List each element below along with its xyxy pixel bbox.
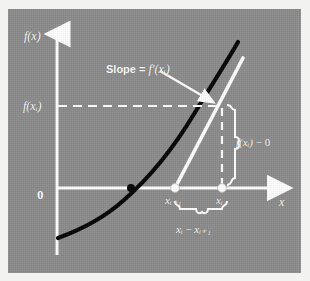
vertical-brace-label: f(xᵢ) − 0 [236,137,270,148]
slope-annotation-prefix: Slope = [106,63,149,75]
horizontal-brace-label-first: xᵢ [176,223,183,235]
y-axis-label: f(x) [24,30,41,42]
origin-label: 0 [37,188,44,201]
x-next-dot [171,184,180,193]
y-tick-label: f(xᵢ) [23,100,42,112]
figure-panel: f(x) f(xᵢ) 0 x Slope = f′(xᵢ) xᵢ₊₁ xᵢ f(… [8,9,301,273]
slope-annotation-math: f′(xᵢ) [149,62,170,76]
root-dot [127,184,135,192]
y-tick-label-text: f(xᵢ) [23,99,42,113]
figure-newton-raphson: f(x) f(xᵢ) 0 x Slope = f′(xᵢ) xᵢ₊₁ xᵢ f(… [0,0,310,281]
vertical-brace-label-rest: − 0 [253,136,270,148]
slope-annotation: Slope = f′(xᵢ) [106,63,170,75]
x-current-label: xᵢ [216,195,223,206]
horizontal-brace-label: xᵢ − xᵢ₊₁ [176,224,211,235]
x-current-dot [218,184,227,193]
x-axis-label: x [279,196,284,208]
vertical-brace-label-math: f(xᵢ) [236,136,253,148]
horizontal-brace-label-op: − [183,223,195,235]
x-next-label: xᵢ₊₁ [165,195,181,206]
horizontal-brace-label-second: xᵢ₊₁ [194,223,210,235]
tangent-line [175,58,243,188]
